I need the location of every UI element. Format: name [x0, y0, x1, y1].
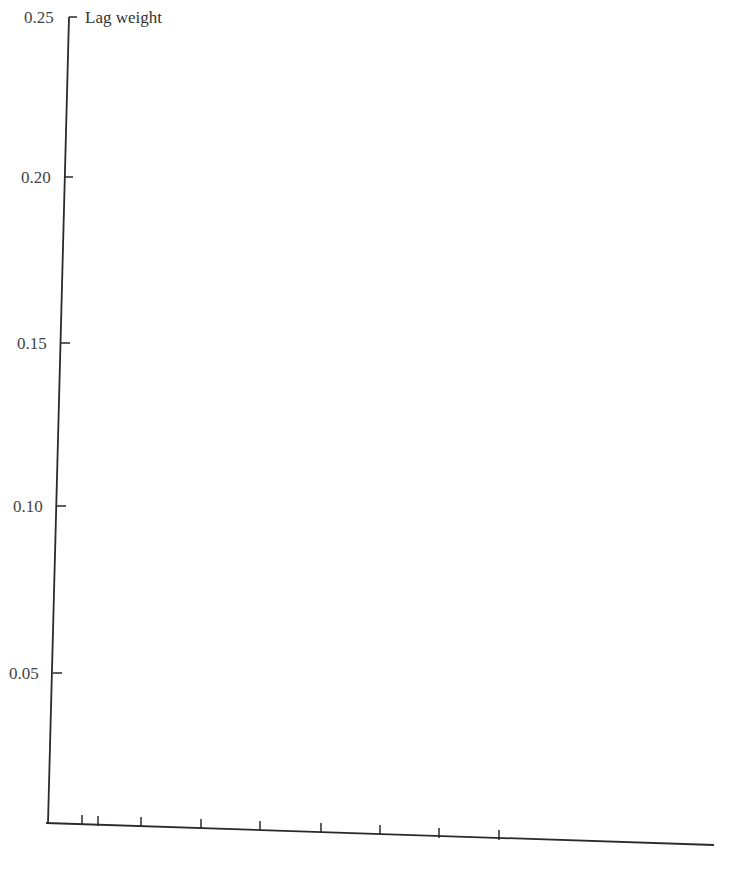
- y-tick-label-025: 0.25: [24, 8, 54, 27]
- lag-weight-chart: 0.25 0.20 0.15 0.10 0.05 Lag weight: [0, 0, 750, 876]
- x-axis: [46, 815, 714, 845]
- y-tick-label-020: 0.20: [21, 168, 51, 187]
- y-axis-title: Lag weight: [85, 8, 162, 27]
- y-tick-label-005: 0.05: [9, 664, 39, 683]
- y-tick-label-015: 0.15: [17, 334, 47, 353]
- y-axis: 0.25 0.20 0.15 0.10 0.05 Lag weight: [9, 8, 162, 823]
- y-tick-label-010: 0.10: [13, 497, 43, 516]
